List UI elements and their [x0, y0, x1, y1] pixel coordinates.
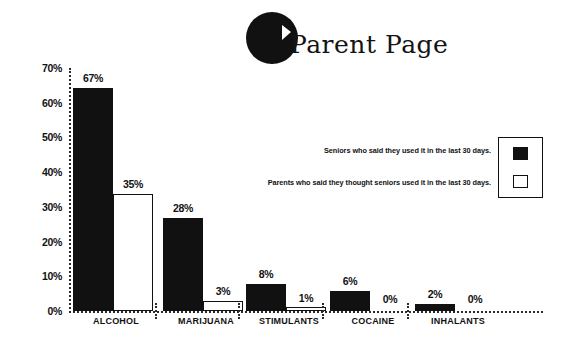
y-axis-tick-label: 30%	[20, 201, 62, 213]
legend-swatch-box	[498, 137, 543, 198]
y-axis-tick-label: 10%	[20, 270, 62, 282]
bar-stimulants-parents	[286, 307, 326, 311]
legend-swatch-hollow-white	[513, 175, 528, 188]
legend-label-seniors: Seniors who said they used it in the las…	[214, 146, 491, 155]
bar-value-label: 2%	[415, 288, 455, 300]
bar-value-label: 28%	[163, 202, 203, 214]
x-axis-group-separator	[322, 303, 324, 319]
x-axis-category-label: MARIJUANA	[163, 316, 249, 326]
bar-cocaine-seniors	[330, 291, 370, 311]
bar-value-label: 0%	[370, 293, 410, 305]
x-axis-category-label: ALCOHOL	[73, 316, 159, 326]
legend-swatch-solid-black	[513, 147, 528, 160]
bar-value-label: 8%	[246, 268, 286, 280]
x-axis-category-label: STIMULANTS	[246, 316, 332, 326]
x-axis-category-label: INHALANTS	[415, 316, 501, 326]
bar-value-label: 1%	[286, 292, 326, 304]
x-axis-category-label: COCAINE	[330, 316, 416, 326]
y-axis-line	[69, 68, 71, 313]
bar-marijuana-seniors	[163, 218, 203, 311]
y-axis-tick-label: 60%	[20, 97, 62, 109]
bar-inhalants-seniors	[415, 304, 455, 311]
bar-value-label: 3%	[203, 285, 243, 297]
y-axis-tick-label: 0%	[20, 305, 62, 317]
x-axis-group-separator	[238, 303, 240, 319]
bar-value-label: 67%	[73, 72, 113, 84]
x-axis-line	[69, 311, 543, 313]
bar-value-label: 6%	[330, 275, 370, 287]
y-axis-tick-label: 70%	[20, 62, 62, 74]
x-axis-group-separator	[407, 303, 409, 319]
bar-alcohol-seniors	[73, 88, 113, 311]
legend-label-parents: Parents who said they thought seniors us…	[214, 178, 491, 187]
bar-alcohol-parents	[113, 194, 153, 311]
bar-stimulants-seniors	[246, 284, 286, 311]
y-axis-tick-label: 40%	[20, 166, 62, 178]
bar-marijuana-parents	[203, 301, 243, 311]
y-axis-tick-label: 20%	[20, 236, 62, 248]
x-axis-group-separator	[155, 303, 157, 319]
bar-chart: 70%60%50%40%30%20%10%0%67%35%ALCOHOL28%3…	[0, 0, 562, 349]
y-axis-tick-label: 50%	[20, 131, 62, 143]
bar-value-label: 0%	[455, 293, 495, 305]
bar-value-label: 35%	[113, 178, 153, 190]
